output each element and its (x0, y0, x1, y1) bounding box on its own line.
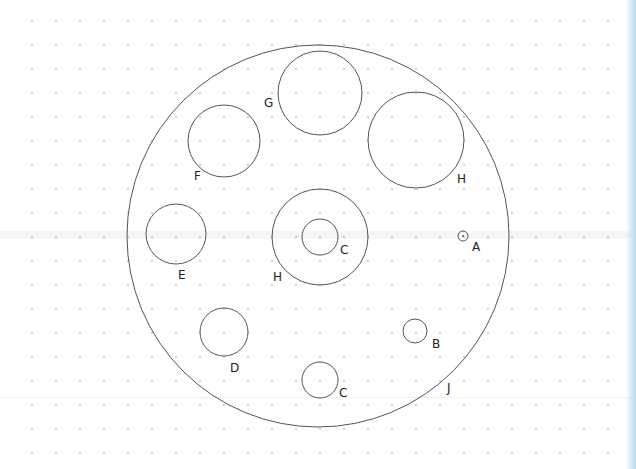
grid-dot (439, 92, 441, 94)
grid-dot (391, 308, 393, 310)
grid-dot (295, 92, 297, 94)
grid-dot (439, 260, 441, 262)
grid-dot (367, 92, 369, 94)
grid-dot (247, 284, 249, 286)
grid-dot (535, 380, 537, 382)
grid-dot (415, 452, 417, 454)
grid-dot (55, 92, 57, 94)
grid-dot (103, 308, 105, 310)
grid-dot (439, 332, 441, 334)
grid-dot (31, 164, 33, 166)
grid-dot (31, 428, 33, 430)
grid-dot (415, 20, 417, 22)
grid-dot (55, 140, 57, 142)
grid-dot (151, 404, 153, 406)
grid-dot (175, 92, 177, 94)
grid-dot (367, 68, 369, 70)
grid-dot (583, 44, 585, 46)
grid-dot (415, 308, 417, 310)
grid-dot (487, 404, 489, 406)
grid-dot (583, 284, 585, 286)
grid-dot (343, 188, 345, 190)
grid-dot (583, 68, 585, 70)
page-edge-shadow (626, 0, 636, 469)
grid-dot (391, 404, 393, 406)
grid-dot (247, 308, 249, 310)
grid-dot (559, 308, 561, 310)
grid-dot (343, 452, 345, 454)
grid-dot (607, 188, 609, 190)
grid-dot (271, 188, 273, 190)
grid-dot (343, 380, 345, 382)
grid-dot (319, 92, 321, 94)
grid-dot (607, 332, 609, 334)
grid-dot (487, 380, 489, 382)
grid-dot (223, 452, 225, 454)
grid-dot (103, 68, 105, 70)
grid-dot (79, 284, 81, 286)
grid-dot (175, 380, 177, 382)
grid-dot (103, 20, 105, 22)
grid-dot (247, 164, 249, 166)
grid-dot (343, 428, 345, 430)
grid-dot (199, 164, 201, 166)
grid-dot (319, 380, 321, 382)
grid-dot (391, 428, 393, 430)
grid-dot (343, 356, 345, 358)
grid-dot (199, 428, 201, 430)
label-h-center: H (273, 270, 282, 284)
grid-dot (199, 452, 201, 454)
label-a: A (472, 240, 481, 254)
grid-dot (79, 308, 81, 310)
grid-dot (103, 260, 105, 262)
grid-dot (31, 188, 33, 190)
grid-dot (127, 44, 129, 46)
grid-dot (511, 164, 513, 166)
grid-dot (175, 284, 177, 286)
grid-dot (247, 188, 249, 190)
grid-dot (439, 452, 441, 454)
grid-dot (319, 428, 321, 430)
grid-dot (319, 308, 321, 310)
grid-dot (511, 68, 513, 70)
grid-dot (295, 44, 297, 46)
grid-dot (343, 260, 345, 262)
grid-dot (559, 356, 561, 358)
grid-dot (559, 116, 561, 118)
grid-dot (31, 284, 33, 286)
grid-dot (367, 452, 369, 454)
grid-dot (439, 116, 441, 118)
grid-dot (607, 428, 609, 430)
grid-dot (415, 428, 417, 430)
grid-dot (295, 428, 297, 430)
grid-dot (415, 356, 417, 358)
grid-dot (31, 404, 33, 406)
grid-dot (607, 452, 609, 454)
grid-dot (31, 332, 33, 334)
grid-dot (199, 116, 201, 118)
grid-dot (55, 188, 57, 190)
grid-dot (247, 92, 249, 94)
grid-dot (535, 140, 537, 142)
grid-dot (367, 428, 369, 430)
grid-dot (487, 428, 489, 430)
grid-dot (559, 404, 561, 406)
grid-dot (319, 116, 321, 118)
grid-dot (367, 116, 369, 118)
label-c-center: C (340, 243, 348, 257)
grid-dot (127, 164, 129, 166)
grid-dot (391, 284, 393, 286)
grid-dot (79, 116, 81, 118)
grid-dot (511, 188, 513, 190)
grid-dot (295, 20, 297, 22)
label-j: J (446, 381, 451, 395)
grid-dot (175, 20, 177, 22)
grid-dot (175, 356, 177, 358)
grid-dot (247, 260, 249, 262)
grid-dot (535, 260, 537, 262)
grid-dot (79, 92, 81, 94)
grid-dot (463, 452, 465, 454)
grid-dot (319, 164, 321, 166)
grid-dot (127, 332, 129, 334)
grid-dot (391, 260, 393, 262)
